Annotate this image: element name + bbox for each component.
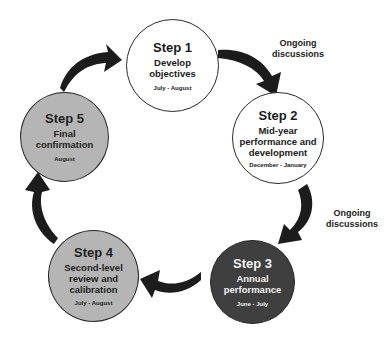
- annotation-line: Ongoing: [317, 208, 386, 219]
- step-number: Step 2: [258, 108, 297, 123]
- step-name-line: Mid-year: [258, 125, 297, 136]
- step-name-line: performance and: [239, 136, 316, 147]
- step-number: Step 3: [233, 256, 272, 271]
- step-name-line: performance: [224, 284, 282, 295]
- step-period: July - August: [154, 84, 192, 92]
- curved-arrow-icon: [25, 172, 58, 244]
- step-period: August: [54, 155, 75, 163]
- step-name-line: Develop: [154, 57, 191, 68]
- step-name-line: Second-level: [64, 262, 123, 273]
- step-name-line: calibration: [69, 284, 117, 295]
- step-name-line: confirmation: [36, 139, 94, 150]
- step-number: Step 4: [74, 245, 113, 260]
- step-3-node: Step 3 Annual performance June - July: [210, 240, 295, 324]
- ongoing-discussions-label: Ongoing discussions: [258, 38, 338, 60]
- performance-cycle-diagram: Step 1 Develop objectives July - August …: [0, 0, 386, 338]
- step-5-node: Step 5 Final confirmation August: [20, 92, 109, 182]
- step-name-line: Annual: [236, 273, 268, 284]
- step-4-node: Step 4 Second-level review and calibrati…: [48, 230, 139, 322]
- annotation-line: Ongoing: [258, 38, 338, 49]
- curved-arrow-icon: [140, 270, 201, 298]
- annotation-line: discussions: [317, 219, 386, 230]
- step-name-line: objectives: [149, 68, 195, 79]
- step-period: July - August: [75, 299, 113, 307]
- annotation-line: discussions: [258, 49, 338, 60]
- step-period: June - July: [237, 300, 268, 308]
- step-2-node: Step 2 Mid-year performance and developm…: [232, 92, 324, 184]
- curved-arrow-icon: [60, 44, 122, 92]
- step-number: Step 1: [153, 40, 192, 55]
- step-period: December - January: [249, 161, 306, 169]
- step-1-node: Step 1 Develop objectives July - August: [126, 19, 219, 112]
- step-name-line: Final: [53, 128, 75, 139]
- step-name-line: development: [249, 147, 308, 158]
- curved-arrow-icon: [278, 184, 312, 244]
- step-name-line: review and: [69, 273, 118, 284]
- ongoing-discussions-label: Ongoing discussions: [317, 208, 386, 230]
- step-number: Step 5: [45, 111, 84, 126]
